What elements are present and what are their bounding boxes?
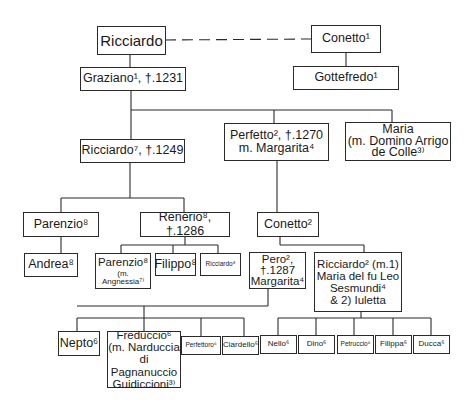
node-conetto-1: Conetto¹ xyxy=(311,25,381,53)
node-pero: Pero², †.1287 Margarita⁴ xyxy=(249,252,306,289)
dashed-link-ricciardo-conetto xyxy=(165,39,311,40)
node-nepto: Nepto⁶ xyxy=(58,331,100,356)
node-freduccio: Freduccio⁶ (m. Narduccia di Pagnanuccio … xyxy=(107,331,181,388)
node-conetto-2: Conetto² xyxy=(257,212,319,237)
node-ciardello: Ciardello⁶ xyxy=(222,336,259,355)
node-renerio: Renerio⁸, †.1286 xyxy=(140,212,230,237)
node-gottefredo: Gottefredo¹ xyxy=(293,66,399,90)
node-filippa: Filippa⁶ xyxy=(375,335,412,354)
node-dino: Dino⁶ xyxy=(298,335,335,354)
node-ricciardo-8: Ricciardo⁸ xyxy=(200,253,241,276)
node-parenzio-8: Parenzio⁸ xyxy=(23,212,99,237)
node-maria: Maria (m. Domino Arrigo de Colle³⁾ xyxy=(345,122,451,161)
node-filippo: Filippo⁸ xyxy=(155,253,196,276)
node-graziano: Graziano¹, †.1231 xyxy=(80,67,186,91)
node-ricciardo-7: Ricciardo⁷, †.1249 xyxy=(80,139,185,163)
node-ducca: Ducca⁶ xyxy=(413,335,450,354)
node-ricciardo-2: Ricciardo² (m.1) Maria del fu Leo Sesmun… xyxy=(314,252,402,312)
node-parenzio-8b-spouse: (m. Angnessia⁷⁾ xyxy=(96,270,150,287)
node-nello: Nello⁶ xyxy=(260,335,297,354)
node-parenzio-8b-name: Parenzio⁸ xyxy=(98,256,148,268)
node-parenzio-8b: Parenzio⁸ (m. Angnessia⁷⁾ xyxy=(95,253,151,289)
node-ricciardo-root: Ricciardo xyxy=(97,26,166,55)
node-petruccio: Petruccio⁶ xyxy=(337,335,374,354)
node-perfetto: Perfetto², †.1270 m. Margarita⁴ xyxy=(224,123,329,161)
node-andrea: Andrea⁸ xyxy=(24,253,78,277)
node-perfettoro: Perfettoro⁶ xyxy=(181,336,221,355)
